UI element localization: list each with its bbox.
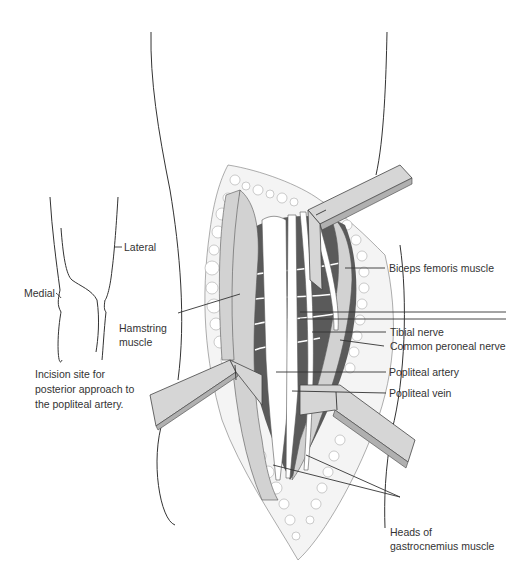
label-lateral: Lateral bbox=[124, 241, 156, 254]
caption-line-2: posterior approach to bbox=[35, 382, 134, 397]
label-popliteal-vein: Popliteal vein bbox=[389, 387, 451, 400]
label-popliteal-artery: Popliteal artery bbox=[389, 366, 459, 379]
incision-line bbox=[61, 228, 99, 352]
label-tibial-nerve: Tibial nerve bbox=[390, 326, 444, 339]
label-gastrocnemius: Heads of gastrocnemius muscle bbox=[390, 525, 494, 553]
caption-line-3: the popliteal artery. bbox=[35, 397, 134, 412]
label-biceps-femoris: Biceps femoris muscle bbox=[389, 262, 494, 275]
label-hamstring-muscle: Hamstring muscle bbox=[119, 321, 167, 349]
label-medial: Medial bbox=[24, 287, 55, 300]
anatomy-diagram bbox=[0, 0, 522, 572]
inset-caption: Incision site for posterior approach to … bbox=[35, 367, 134, 412]
label-common-peroneal-nerve: Common peroneal nerve bbox=[390, 340, 506, 353]
inset-leg-outline bbox=[50, 197, 122, 362]
caption-line-1: Incision site for bbox=[35, 367, 134, 382]
